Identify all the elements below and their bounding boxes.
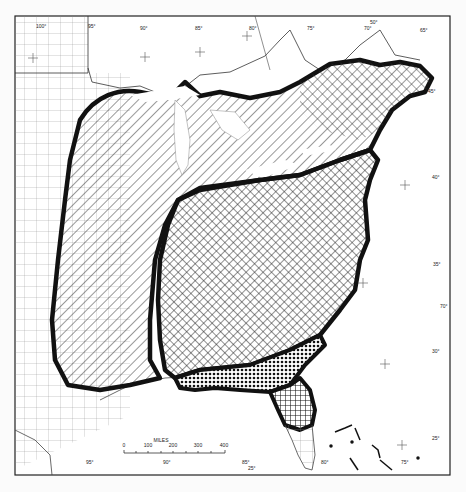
scale-title: MILES — [153, 437, 169, 443]
lon-label: 75° — [307, 25, 315, 31]
scale-tick-400: 400 — [220, 442, 229, 448]
scale-tick-0: 0 — [123, 442, 126, 448]
lon-label: 100° — [36, 23, 46, 29]
lon-label: 80° — [249, 25, 257, 31]
lon-label: 65° — [420, 27, 428, 33]
lon-label: 70° — [440, 303, 448, 309]
lat-label: 45° — [428, 88, 436, 94]
scale-tick-100: 100 — [144, 442, 153, 448]
lat-label: 40° — [432, 174, 440, 180]
lon-label: 90° — [140, 25, 148, 31]
lat-label: 25° — [248, 465, 256, 471]
scale-tick-200: 200 — [169, 442, 178, 448]
lon-label: 95° — [86, 459, 94, 465]
lat-label: 35° — [433, 261, 441, 267]
lon-label: 90° — [163, 459, 171, 465]
range-map: MILES 0 100 200 300 400 100° 95° 90° 85°… — [0, 0, 466, 492]
scale-tick-300: 300 — [194, 442, 203, 448]
lon-label: 75° — [401, 459, 409, 465]
lon-label: 80° — [321, 459, 329, 465]
lon-label: 95° — [88, 23, 96, 29]
lat-label: 25° — [432, 435, 440, 441]
lon-label: 70° — [364, 25, 372, 31]
lon-label: 85° — [195, 25, 203, 31]
lat-label: 30° — [432, 348, 440, 354]
